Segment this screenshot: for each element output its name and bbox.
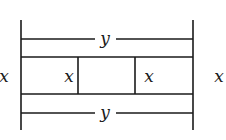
label-bottom-y: y bbox=[99, 102, 110, 122]
label-top-y: y bbox=[99, 28, 110, 48]
label-outer-left-x: x bbox=[0, 66, 9, 86]
label-inner-left-x: x bbox=[64, 66, 74, 86]
label-outer-right-x: x bbox=[214, 66, 224, 86]
dimension-diagram: y y x x x x bbox=[0, 0, 226, 140]
label-inner-right-x: x bbox=[144, 66, 154, 86]
